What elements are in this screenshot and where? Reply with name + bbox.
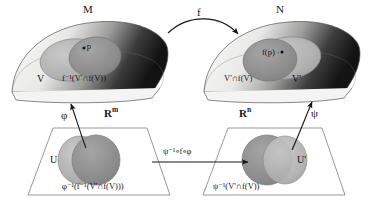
label-region-V: V [37,74,44,84]
label-point-fp: f(p) · [262,48,280,57]
label-Rn-exponent: n [247,105,251,114]
label-manifold-M: M [83,4,93,15]
label-region-f-inv: f⁻¹(V'∩f(V)) [62,74,106,83]
label-map-psi-inv-f-phi: ψ⁻¹∘f∘φ [163,147,191,156]
label-map-psi: ψ [311,108,318,119]
manifold-diagram-figure: M N f V f⁻¹(V'∩f(V)) ·p V'∩f(V) V' f(p) … [0,0,380,204]
label-region-U: U [50,155,57,165]
label-region-Vprime-cap-fV: V'∩f(V) [224,74,252,83]
label-point-p: ·p [84,42,91,51]
label-map-phi: φ [61,110,67,121]
label-phi-inv-preimage: φ⁻¹(f⁻¹(V'∩f(V))) [62,182,124,191]
label-Rn-base: R [239,107,247,119]
point-fp-dot [281,51,284,54]
label-psi-inv-preimage: ψ⁻¹(V'∩f(V)) [213,182,259,191]
label-region-Vprime: V' [292,74,301,84]
label-Rn: Rn [239,108,251,119]
label-Rm-exponent: m [112,105,118,114]
label-region-Uprime: U' [297,155,306,165]
arrow-f [168,19,238,34]
label-manifold-N: N [276,4,284,15]
label-Rm-base: R [104,107,112,119]
region-phi-inv-inner [72,135,120,185]
diagram-canvas [0,0,380,204]
label-map-f: f [197,7,201,18]
label-Rm: Rm [104,108,118,119]
